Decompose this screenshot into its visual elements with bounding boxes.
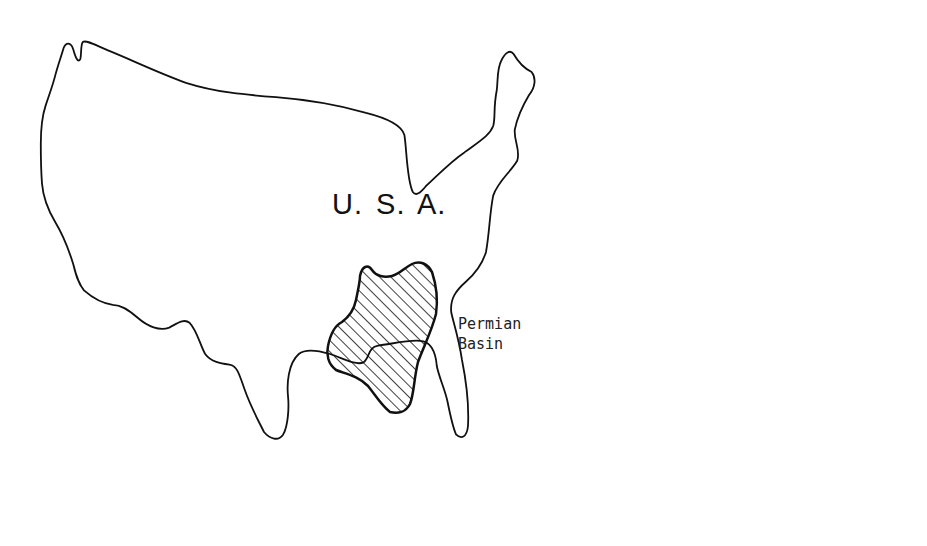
permian-basin-label: Permian Basin bbox=[458, 314, 521, 354]
usa-map bbox=[0, 0, 927, 546]
basin-label-line2: Basin bbox=[458, 334, 521, 354]
usa-outline bbox=[41, 41, 535, 438]
country-label: U. S. A. bbox=[332, 188, 446, 221]
permian-basin-region bbox=[327, 262, 437, 412]
basin-label-line1: Permian bbox=[458, 314, 521, 334]
